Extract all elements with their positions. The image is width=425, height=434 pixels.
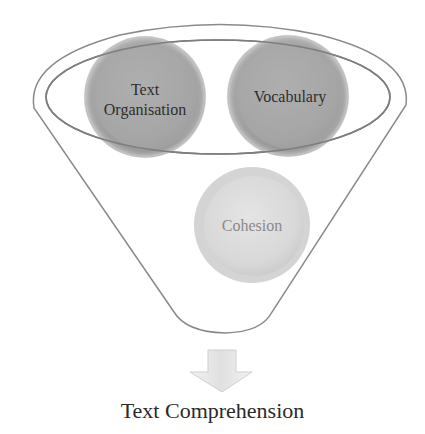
text-organisation-label-line2: Organisation [104,101,186,119]
output-label: Text Comprehension [0,398,425,424]
text-organisation-label-line1: Text [131,81,160,98]
cohesion-ball: Cohesion [194,167,310,283]
down-arrow-icon [190,350,252,392]
vocabulary-label: Vocabulary [254,88,327,106]
cohesion-label: Cohesion [222,217,282,234]
funnel-diagram: Cohesion Text Organisation Vocabulary [0,0,425,434]
